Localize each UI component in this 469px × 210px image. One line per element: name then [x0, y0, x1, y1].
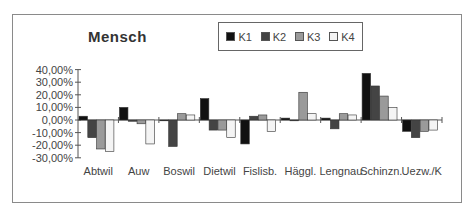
- bar-k2: [88, 120, 97, 138]
- y-tick-label: -20,00%: [32, 139, 73, 151]
- x-tick-label: Schinzn.: [360, 165, 402, 177]
- x-tick-label: Häggl.: [285, 165, 317, 177]
- bar-k2: [411, 120, 420, 138]
- y-tick-label: 30,00%: [36, 76, 74, 88]
- y-tick-label: 0,00%: [42, 114, 73, 126]
- bar-k1: [119, 107, 128, 120]
- bar-k1: [241, 120, 250, 144]
- x-tick-label: Uezw./K: [402, 165, 443, 177]
- bar-k2: [250, 116, 258, 120]
- bar-k3: [339, 114, 348, 120]
- bar-k3: [258, 115, 267, 120]
- x-tick-label: Abtwil: [84, 165, 113, 177]
- plot-area: 40,00%30,00%20,00%10,00%0,00%-10,00%-20,…: [0, 0, 469, 210]
- bar-k1: [281, 118, 290, 120]
- bar-k4: [429, 120, 438, 130]
- bar-k1: [322, 118, 331, 120]
- bar-k4: [308, 114, 317, 120]
- bar-k2: [128, 120, 137, 121]
- bar-k2: [290, 120, 299, 121]
- y-tick-label: 40,00%: [36, 64, 74, 76]
- bar-k3: [299, 92, 308, 120]
- bar-k2: [169, 120, 178, 146]
- x-tick-label: Lengnau: [319, 165, 362, 177]
- bar-k3: [380, 96, 389, 120]
- bar-k2: [209, 120, 218, 130]
- bar-k2: [371, 86, 380, 120]
- bar-k3: [97, 120, 106, 149]
- bar-k4: [389, 107, 398, 120]
- y-tick-label: 20,00%: [36, 89, 74, 101]
- x-tick-label: Boswil: [163, 165, 195, 177]
- y-tick-label: -30,00%: [32, 152, 73, 164]
- bar-k3: [137, 120, 146, 124]
- bar-k3: [218, 120, 227, 130]
- x-tick-label: Auw: [128, 165, 149, 177]
- bar-k4: [348, 115, 357, 120]
- bar-k4: [267, 120, 276, 131]
- y-tick-label: 10,00%: [36, 101, 74, 113]
- bar-k1: [403, 120, 412, 131]
- x-tick-label: Fislisb.: [243, 165, 277, 177]
- bar-k3: [177, 114, 186, 120]
- bar-k4: [227, 120, 236, 138]
- bar-k1: [160, 120, 169, 121]
- y-tick-label: -10,00%: [32, 127, 73, 139]
- bar-k1: [362, 73, 371, 120]
- bar-k4: [146, 120, 155, 144]
- bar-k1: [200, 99, 209, 120]
- bar-k4: [105, 120, 114, 152]
- bar-k2: [330, 120, 339, 129]
- bar-k4: [186, 115, 195, 120]
- bar-k1: [79, 116, 88, 120]
- bar-k3: [420, 120, 429, 131]
- x-tick-label: Dietwil: [203, 165, 235, 177]
